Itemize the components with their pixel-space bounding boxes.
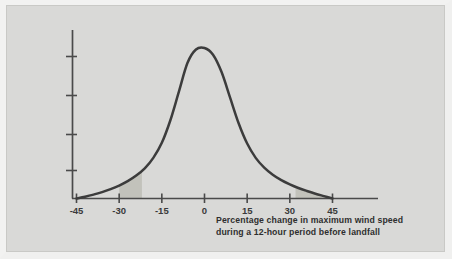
x-tick-label--30: -30	[112, 205, 126, 216]
y-axis-ticks	[66, 57, 77, 171]
figure-panel: -45-30-150153045 Percentage change in ma…	[0, 0, 452, 259]
caption-line-2: during a 12-hour period before landfall	[216, 226, 416, 238]
chart-caption: Percentage change in maximum wind speed …	[216, 214, 416, 238]
x-tick-label-0: 0	[202, 205, 207, 216]
distribution-curve	[77, 47, 333, 198]
x-tick-label--45: -45	[70, 205, 84, 216]
x-tick-label--15: -15	[155, 205, 169, 216]
caption-line-1: Percentage change in maximum wind speed	[216, 214, 416, 226]
